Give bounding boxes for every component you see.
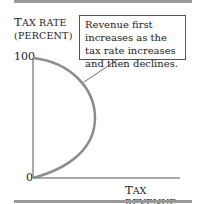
bottom-rule xyxy=(14,200,192,203)
annotation-box: Revenue first increases as the tax rate … xyxy=(79,15,186,60)
x-label-cap: T xyxy=(125,183,133,197)
laffer-curve xyxy=(33,58,95,178)
